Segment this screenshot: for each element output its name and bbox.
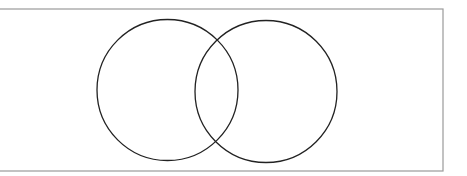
venn-diagram [0, 0, 467, 176]
